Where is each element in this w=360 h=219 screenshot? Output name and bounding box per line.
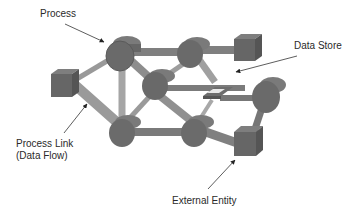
pointer-process <box>65 24 104 42</box>
label-external-entity: External Entity <box>172 195 236 207</box>
network-diagram <box>0 0 360 219</box>
pointer-external-entity <box>208 160 235 189</box>
label-process-link-line2: (Data Flow) <box>16 150 68 162</box>
process-p5 <box>252 77 286 113</box>
link-p3-p6 <box>160 96 190 120</box>
external-entity-top-right <box>234 34 262 61</box>
external-entity-left <box>51 69 79 97</box>
external-entity-bottom-right <box>234 126 263 156</box>
label-process: Process <box>40 8 76 20</box>
label-data-store: Data Store <box>294 40 342 52</box>
link-cubel-p4 <box>75 85 120 125</box>
pointer-process-link <box>64 104 87 133</box>
label-process-link-line1: Process Link <box>16 138 73 150</box>
